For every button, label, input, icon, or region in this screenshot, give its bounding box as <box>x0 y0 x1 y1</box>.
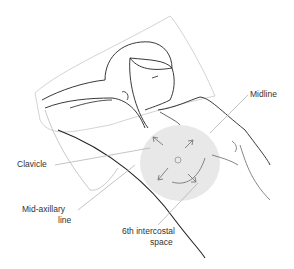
face-outline <box>130 58 174 110</box>
label-intercostal-1: 6th intercostal <box>122 226 175 237</box>
label-clavicle: Clavicle <box>17 159 47 170</box>
label-mid-axillary-1: Mid-axillary <box>22 204 65 215</box>
label-mid-axillary-2: line <box>58 215 71 226</box>
exam-region-shading <box>140 125 220 201</box>
label-intercostal-2: space <box>150 237 173 248</box>
pillow-outline <box>35 16 215 132</box>
label-midline: Midline <box>250 89 277 100</box>
raised-arm <box>42 80 145 128</box>
